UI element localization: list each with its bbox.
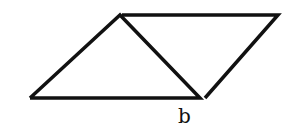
diagram-canvas: b xyxy=(0,0,291,137)
left-triangle xyxy=(30,15,200,98)
vertex-label-b: b xyxy=(178,104,191,128)
parallelogram-figure xyxy=(0,0,291,137)
right-triangle-edges xyxy=(122,15,278,98)
